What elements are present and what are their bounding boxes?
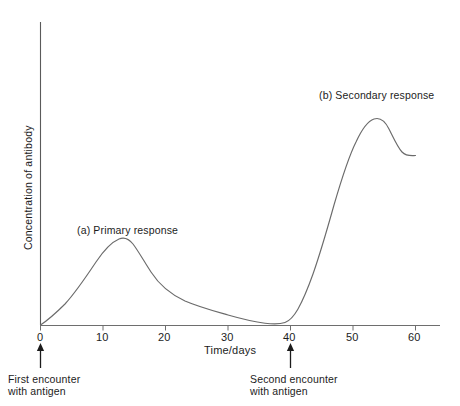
second-encounter-note-line2: with antigen — [250, 385, 338, 397]
first-encounter-note: First encounter with antigen — [8, 373, 80, 398]
x-tick-label-0: 0 — [37, 331, 43, 344]
x-tick-label-30: 30 — [221, 331, 234, 344]
x-tick-label-40: 40 — [283, 331, 296, 344]
x-axis-ticks — [41, 326, 416, 331]
first-encounter-note-line1: First encounter — [8, 373, 80, 385]
second-encounter-note: Second encounter with antigen — [250, 373, 338, 398]
second-encounter-arrow-icon — [287, 343, 294, 368]
antibody-concentration-curve — [41, 118, 416, 325]
first-encounter-note-line2: with antigen — [8, 385, 80, 397]
x-tick-label-50: 50 — [346, 331, 359, 344]
primary-response-label: (a) Primary response — [77, 224, 178, 236]
second-encounter-note-line1: Second encounter — [250, 373, 338, 385]
secondary-response-label: (b) Secondary response — [319, 89, 434, 101]
x-tick-label-10: 10 — [96, 331, 109, 344]
first-encounter-arrow-icon — [37, 343, 44, 368]
antibody-response-chart: Concentration of antibody 0 10 20 30 40 … — [0, 0, 460, 406]
y-axis-title: Concentration of antibody — [22, 125, 34, 250]
x-tick-label-20: 20 — [158, 331, 171, 344]
x-axis-title: Time/days — [204, 344, 256, 357]
x-tick-label-60: 60 — [408, 331, 421, 344]
